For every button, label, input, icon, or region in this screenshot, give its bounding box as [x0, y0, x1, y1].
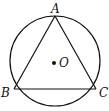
label-c: C	[99, 86, 108, 100]
circumcircle	[10, 16, 100, 106]
segment-ca	[55, 16, 96, 89]
segment-ab	[14, 16, 55, 89]
label-b: B	[0, 86, 10, 100]
center-point-o	[52, 61, 56, 65]
label-a: A	[50, 2, 60, 16]
label-o: O	[59, 56, 69, 70]
geometry-diagram: A B C O	[0, 0, 109, 111]
